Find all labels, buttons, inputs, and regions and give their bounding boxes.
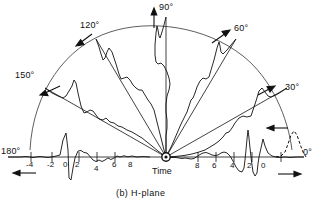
angle-label-30deg: 30° bbox=[285, 83, 299, 92]
left-tick-label-4: 4 bbox=[94, 165, 99, 173]
time-axis-label: Time bbox=[152, 166, 172, 176]
left-tick-label-0: 0 bbox=[63, 161, 68, 169]
trace-150deg bbox=[45, 80, 166, 157]
arrow-180-direction-icon bbox=[13, 170, 36, 175]
left-tick-label-2: 2 bbox=[75, 161, 80, 169]
arrow-90-direction-icon bbox=[151, 8, 157, 28]
angle-label-90deg: 90° bbox=[159, 3, 173, 12]
left-tick-label-6: 6 bbox=[112, 161, 117, 169]
polar-trace-plot bbox=[0, 0, 327, 208]
left-tick-label--4: -4 bbox=[26, 161, 34, 169]
right-tick-label-6: 6 bbox=[212, 162, 217, 170]
arrow-120-direction-icon bbox=[76, 34, 92, 46]
arrow-150-direction-icon bbox=[40, 86, 60, 96]
right-tick-label-8: 8 bbox=[195, 162, 200, 170]
right-tick-label-2: 2 bbox=[247, 162, 252, 170]
origin-marker bbox=[162, 153, 170, 161]
figure-caption: (b) H-plane bbox=[116, 188, 165, 198]
right-tick-label-4: 4 bbox=[230, 162, 235, 170]
trace-90deg bbox=[155, 17, 170, 157]
arrow-dashed-trace-icon bbox=[267, 125, 288, 130]
baseline-30deg bbox=[166, 88, 287, 157]
trace-0deg bbox=[166, 130, 304, 176]
angle-label-150deg: 150° bbox=[15, 71, 34, 80]
arrow-60-direction-icon bbox=[212, 30, 230, 43]
pointer-arrows bbox=[13, 8, 301, 177]
arrow-0-direction-icon bbox=[278, 171, 301, 176]
angle-label-0deg: 0° bbox=[303, 148, 312, 157]
angle-label-60deg: 60° bbox=[234, 24, 248, 33]
outer-arc bbox=[30, 26, 292, 150]
left-tick-label-8: 8 bbox=[128, 161, 133, 169]
angle-label-180deg: 180° bbox=[1, 147, 20, 156]
left-tick-label--2: -2 bbox=[47, 161, 55, 169]
baseline-60deg bbox=[166, 39, 236, 157]
right-tick-label-0: 0 bbox=[261, 162, 266, 170]
angle-label-120deg: 120° bbox=[80, 21, 99, 30]
h-plane-polar-figure: 0° 30° 60° 90° 120° 150° 180° -4 -2 0 2 … bbox=[0, 0, 327, 208]
